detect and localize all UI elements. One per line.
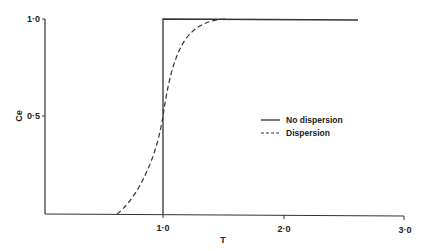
x-axis-label: T xyxy=(220,235,226,245)
chart: 1·0 0·5 1·0 2·0 3·0 T Ce No dispersion D… xyxy=(0,0,422,251)
x-tick-label-3: 3·0 xyxy=(398,225,411,235)
x-tick-label-2: 2·0 xyxy=(277,224,290,234)
legend: No dispersion Dispersion xyxy=(261,115,343,138)
y-tick-label-05: 0·5 xyxy=(27,111,40,121)
x-tick-label-1: 1·0 xyxy=(156,223,169,233)
x-axis xyxy=(45,214,404,216)
y-axis-label: Ce xyxy=(14,110,24,122)
legend-label-dispersion: Dispersion xyxy=(286,128,330,138)
series-dispersion xyxy=(117,19,225,214)
y-tick-label-1: 1·0 xyxy=(27,14,40,24)
legend-label-no-dispersion: No dispersion xyxy=(286,115,343,125)
